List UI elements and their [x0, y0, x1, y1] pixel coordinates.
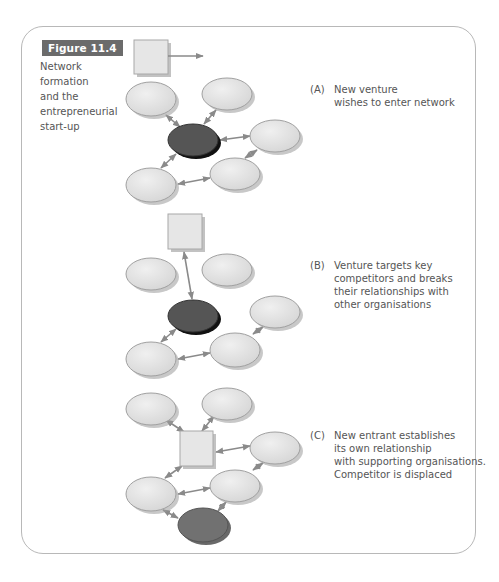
new-venture-node	[168, 214, 202, 249]
displaced-competitor-node	[178, 508, 228, 542]
panel-label: (B)	[310, 259, 325, 272]
panel-text-line: other organisations	[334, 298, 499, 311]
panel-text-line: competitors and breaks	[334, 272, 499, 285]
panel-b-diagram	[126, 214, 303, 379]
panel-text-line: with supporting organisations.	[334, 455, 499, 468]
panel-text-line: Competitor is displaced	[334, 468, 499, 481]
panel-text-line: its own relationship	[334, 442, 499, 455]
new-venture-node	[134, 40, 168, 74]
panel-a-diagram	[126, 40, 303, 205]
competitor-node	[168, 124, 218, 156]
panel-text-line: New entrant establishes	[334, 429, 499, 442]
panel-text-line: their relationships with	[334, 285, 499, 298]
panel-label: (A)	[310, 83, 325, 96]
panel-text-line: New venture	[334, 83, 499, 96]
panel-label: (C)	[310, 429, 325, 442]
new-entrant-node	[180, 431, 213, 466]
panel-text-line: wishes to enter network	[334, 96, 499, 109]
panel-c-diagram	[126, 388, 303, 545]
competitor-node	[168, 300, 218, 332]
panel-text-line: Venture targets key	[334, 259, 499, 272]
